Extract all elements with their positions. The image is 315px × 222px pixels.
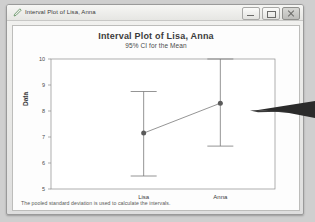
interval-plot-graphic xyxy=(13,26,301,212)
window-titlebar[interactable]: Interval Plot of Lisa, Anna xyxy=(7,5,303,21)
y-tick-label: 9 xyxy=(29,82,45,88)
plot-area: Data 1098765 LisaAnna xyxy=(13,26,301,212)
close-button[interactable] xyxy=(282,7,300,20)
chart-window: Interval Plot of Lisa, Anna Interval Plo… xyxy=(6,4,304,215)
window-title: Interval Plot of Lisa, Anna xyxy=(25,7,96,18)
chart-panel: Interval Plot of Lisa, Anna 95% CI for t… xyxy=(12,25,300,211)
window-controls xyxy=(242,7,300,20)
maximize-button[interactable] xyxy=(262,7,280,20)
y-tick-label: 10 xyxy=(29,56,45,62)
pencil-icon xyxy=(13,8,22,17)
screenshot-root: Interval Plot of Lisa, Anna Interval Plo… xyxy=(0,0,315,222)
plot-footnote: The pooled standard deviation is used to… xyxy=(21,200,170,206)
y-axis-label: Data xyxy=(22,92,29,106)
y-tick-label: 7 xyxy=(29,134,45,140)
y-tick-label: 8 xyxy=(29,108,45,114)
x-tick-label-anna: Anna xyxy=(200,194,240,201)
y-tick-label: 5 xyxy=(29,186,45,192)
minimize-button[interactable] xyxy=(242,7,260,20)
y-tick-label: 6 xyxy=(29,160,45,166)
